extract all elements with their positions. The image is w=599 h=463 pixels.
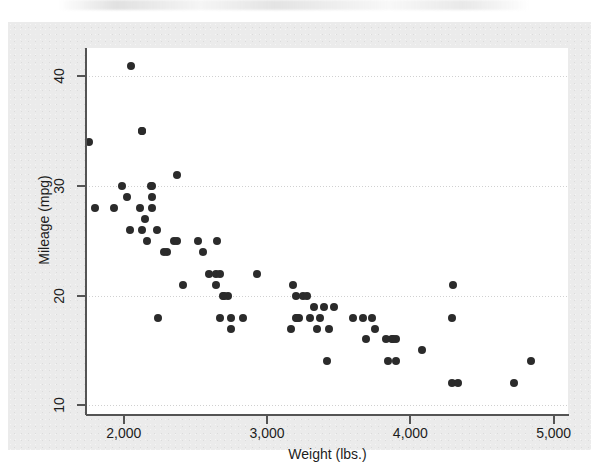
data-point xyxy=(127,62,135,70)
data-point xyxy=(148,204,156,212)
data-point xyxy=(227,325,235,333)
data-point xyxy=(292,314,300,322)
y-tick-label: 40 xyxy=(46,67,72,85)
data-point xyxy=(510,379,518,387)
data-point xyxy=(205,270,213,278)
data-point xyxy=(141,215,149,223)
data-point xyxy=(316,314,324,322)
data-point xyxy=(148,193,156,201)
data-point xyxy=(320,303,328,311)
data-point xyxy=(118,182,126,190)
data-point xyxy=(448,314,456,322)
data-point xyxy=(313,325,321,333)
y-axis-line xyxy=(85,48,87,415)
data-point xyxy=(449,281,457,289)
data-point xyxy=(216,314,224,322)
data-point xyxy=(126,226,134,234)
data-point xyxy=(303,292,311,300)
gridline-y-10 xyxy=(86,405,568,406)
x-axis-title: Weight (lbs.) xyxy=(86,446,569,462)
data-point xyxy=(173,171,181,179)
data-point xyxy=(179,281,187,289)
x-tick-4000 xyxy=(409,416,411,424)
y-tick-40 xyxy=(77,75,86,77)
data-point xyxy=(239,314,247,322)
data-point xyxy=(384,357,392,365)
data-point xyxy=(371,325,379,333)
data-point xyxy=(359,314,367,322)
data-point xyxy=(454,379,462,387)
data-point xyxy=(91,204,99,212)
data-point xyxy=(330,303,338,311)
data-point xyxy=(138,226,146,234)
x-tick-5000 xyxy=(553,416,555,424)
data-point xyxy=(227,314,235,322)
data-point xyxy=(160,248,168,256)
graph-region: 10203040 2,0003,0004,0005,000 Mileage (m… xyxy=(8,22,591,450)
x-tick-2000 xyxy=(123,416,125,424)
scan-smudge xyxy=(60,0,530,10)
data-point xyxy=(349,314,357,322)
gridline-y-20 xyxy=(86,296,568,297)
figure-page: 10203040 2,0003,0004,0005,000 Mileage (m… xyxy=(0,0,599,463)
data-point xyxy=(123,193,131,201)
data-point xyxy=(143,237,151,245)
data-point xyxy=(138,127,146,135)
x-tick-3000 xyxy=(266,416,268,424)
data-point xyxy=(368,314,376,322)
data-point xyxy=(173,237,181,245)
x-axis-line xyxy=(86,414,569,416)
data-point xyxy=(86,138,93,146)
x-tick-label: 2,000 xyxy=(79,425,169,441)
data-point xyxy=(292,292,300,300)
x-tick-label: 3,000 xyxy=(222,425,312,441)
y-tick-20 xyxy=(77,295,86,297)
data-point xyxy=(154,314,162,322)
data-point xyxy=(219,292,227,300)
data-point xyxy=(110,204,118,212)
y-tick-30 xyxy=(77,185,86,187)
data-point xyxy=(323,357,331,365)
data-point xyxy=(306,314,314,322)
x-tick-label: 4,000 xyxy=(365,425,455,441)
data-point xyxy=(392,357,400,365)
data-point xyxy=(362,335,370,343)
gridline-y-30 xyxy=(86,186,568,187)
data-point xyxy=(325,325,333,333)
data-point xyxy=(216,270,224,278)
data-point xyxy=(194,237,202,245)
data-point xyxy=(289,281,297,289)
data-point xyxy=(310,303,318,311)
data-point xyxy=(199,248,207,256)
plot-area xyxy=(86,48,568,414)
data-point xyxy=(153,226,161,234)
data-point xyxy=(527,357,535,365)
y-tick-label: 10 xyxy=(46,396,72,414)
y-axis-title: Mileage (mpg) xyxy=(36,150,52,290)
data-point xyxy=(212,281,220,289)
data-point xyxy=(418,346,426,354)
gridline-y-40 xyxy=(86,76,568,77)
data-point xyxy=(253,270,261,278)
x-tick-label: 5,000 xyxy=(509,425,599,441)
data-point xyxy=(136,204,144,212)
data-point xyxy=(213,237,221,245)
y-tick-10 xyxy=(77,404,86,406)
data-point xyxy=(287,325,295,333)
